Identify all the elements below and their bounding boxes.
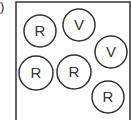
circle-label: V: [74, 16, 84, 33]
circle-label: V: [106, 43, 116, 60]
circle-r: R: [57, 55, 91, 89]
circle-v: V: [63, 9, 95, 41]
circle-label: R: [31, 64, 42, 81]
circle-r: R: [92, 81, 124, 113]
circle-label: R: [69, 63, 80, 80]
circle-label: R: [103, 88, 114, 105]
circle-v: V: [95, 36, 127, 68]
circle-r: R: [19, 56, 53, 90]
circle-r: R: [24, 15, 56, 47]
diagram-canvas: RVVRRR: [0, 0, 131, 120]
circle-label: R: [35, 22, 46, 39]
circle-group: RVVRRR: [19, 9, 127, 113]
